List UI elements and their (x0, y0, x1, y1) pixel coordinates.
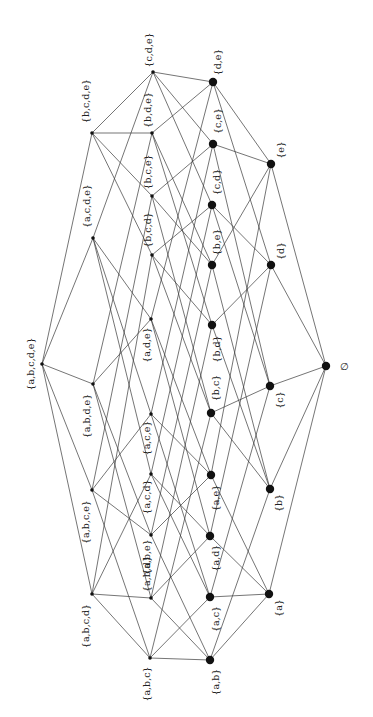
edge-abd-bd (151, 325, 212, 598)
node-label-ce: {c,e} (212, 108, 223, 134)
node-abd (149, 596, 153, 600)
edge-cde-cd (153, 72, 212, 205)
edge-layer (42, 72, 326, 660)
node-ce (209, 140, 217, 148)
edge-be-b (212, 265, 270, 489)
node-label-abc: {a,b,c} (141, 666, 152, 701)
node-label-acde: {a,c,d,e} (81, 184, 92, 228)
node-label-de: {d,e} (212, 49, 223, 76)
node-b (266, 485, 274, 493)
edge-ace-ce (151, 144, 213, 414)
edge-abcd-abc (92, 594, 150, 658)
edge-acde-ade (93, 238, 151, 319)
node-label-a: {a} (273, 599, 284, 617)
edge-abe-ab (151, 535, 210, 660)
node-label-abde: {a,b,d,e} (81, 394, 92, 439)
node-bce (150, 194, 154, 198)
node-bde (150, 131, 154, 135)
node-label-e: {e} (275, 141, 286, 159)
node-abcde (40, 362, 44, 366)
node-acd (149, 472, 153, 476)
edge-acd-ac (151, 474, 210, 597)
node-label-bd: {b,d} (211, 335, 222, 362)
node-e (267, 160, 275, 168)
node-label-abe: {a,b,e} (141, 539, 152, 575)
hasse-diagram: {a,b,c,d,e}{a,b,c,d}{a,b,c,e}{a,b,d,e}{a… (0, 0, 373, 717)
node-d (267, 261, 275, 269)
edge-c-empty (270, 366, 326, 386)
node-label-bc: {b,c} (210, 375, 221, 402)
edge-ace-ac (151, 414, 210, 597)
node-label-abcde: {a,b,c,d,e} (25, 338, 36, 391)
edge-b-empty (270, 366, 326, 489)
node-abce (90, 488, 94, 492)
node-c (266, 382, 274, 390)
edge-ace-ae (151, 414, 211, 475)
node-label-acd: {a,c,d} (141, 479, 152, 514)
edge-bce-be (152, 196, 212, 265)
node-label-ace: {a,c,e} (141, 421, 152, 456)
node-empty (322, 362, 330, 370)
edge-e-empty (271, 164, 326, 366)
node-label-empty: ∅ (340, 361, 349, 372)
node-label-abce: {a,b,c,e} (80, 500, 91, 544)
node-label-ade: {a,d,e} (141, 327, 152, 363)
node-label-be: {b,e} (211, 229, 222, 256)
node-label-c: {c} (274, 391, 285, 408)
edge-cde-de (153, 72, 213, 82)
edge-abe-ae (151, 475, 211, 535)
node-abde (91, 382, 95, 386)
node-label-cd: {c,d} (211, 169, 222, 196)
node-abe (149, 533, 153, 537)
edge-ce-e (213, 144, 271, 164)
edge-bcd-bd (152, 255, 212, 325)
edge-abcd-abd (92, 594, 151, 598)
edge-bcd-bc (152, 255, 211, 413)
edge-acde-ace (93, 238, 151, 414)
node-bcde (90, 131, 94, 135)
node-abcd (90, 592, 94, 596)
edge-abcde-acde (42, 238, 93, 364)
node-label-b: {b} (273, 494, 284, 512)
edge-cde-ce (153, 72, 213, 144)
edge-ae-e (211, 164, 271, 475)
node-label-ae: {a,e} (210, 485, 221, 511)
node-ad (206, 532, 214, 540)
node-label-abcd: {a,b,c,d} (80, 604, 91, 648)
node-label-ac: {a,c} (210, 606, 221, 632)
label-layer: {a,b,c,d,e}{a,b,c,d}{a,b,c,e}{a,b,d,e}{a… (25, 32, 349, 701)
edge-ade-ad (151, 319, 210, 536)
node-de (209, 78, 217, 86)
edge-ade-de (151, 82, 213, 319)
edge-d-empty (271, 265, 326, 366)
node-bc (207, 409, 215, 417)
node-ac (206, 593, 214, 601)
edge-abd-ad (151, 536, 210, 598)
node-be (208, 261, 216, 269)
node-layer (40, 70, 330, 664)
edge-bce-ce (152, 144, 213, 196)
node-acde (91, 236, 95, 240)
node-label-bce: {b,c,e} (142, 154, 153, 189)
edge-abd-ab (151, 598, 210, 660)
node-a (265, 590, 273, 598)
node-bcd (150, 253, 154, 257)
node-ade (149, 317, 153, 321)
node-label-cde: {c,d,e} (143, 32, 154, 67)
node-label-bcde: {b,c,d,e} (80, 79, 91, 123)
node-cd (208, 201, 216, 209)
node-label-ad: {a,d} (210, 545, 221, 572)
edge-abcde-abde (42, 364, 93, 384)
edge-ac-a (210, 594, 269, 597)
node-label-ab: {a,b} (210, 669, 221, 696)
node-ace (149, 412, 153, 416)
node-label-bde: {b,d,e} (142, 92, 153, 128)
edge-abcde-bcde (42, 133, 92, 364)
edge-bc-b (211, 413, 270, 489)
node-cde (151, 70, 155, 74)
node-ae (207, 471, 215, 479)
node-bd (208, 321, 216, 329)
edge-abc-ab (150, 658, 210, 660)
node-label-d: {d} (275, 242, 286, 260)
edge-ab-b (210, 489, 270, 660)
